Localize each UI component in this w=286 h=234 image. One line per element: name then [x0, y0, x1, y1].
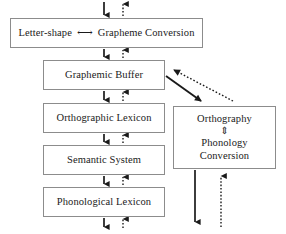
- node-phonological-lexicon[interactable]: Phonological Lexicon: [43, 187, 165, 217]
- node-orthographic-lexicon[interactable]: Orthographic Lexicon: [43, 103, 165, 133]
- orthography-text: Orthography: [197, 113, 252, 125]
- node-orthography-phonology-conversion[interactable]: Orthography ⇕ Phonology Conversion: [173, 106, 276, 169]
- node-label: Orthographic Lexicon: [56, 112, 151, 124]
- bidirectional-arrow-icon: ⟷: [77, 27, 93, 38]
- conversion-text: Conversion: [200, 150, 249, 162]
- letter-shape-text: Letter-shape: [18, 27, 71, 39]
- node-letter-shape-grapheme-conversion[interactable]: Letter-shape ⟷ Grapheme Conversion: [10, 18, 203, 48]
- diagram-canvas: Letter-shape ⟷ Grapheme Conversion Graph…: [0, 0, 286, 234]
- node-label: Semantic System: [67, 154, 141, 166]
- vertical-bidirectional-arrow-icon: ⇕: [220, 126, 228, 136]
- arrow-buffer-to-conversion-solid-diagonal: [166, 76, 201, 101]
- arrow-conversion-to-buffer-dotted-diagonal: [174, 70, 233, 101]
- node-label: Phonological Lexicon: [57, 196, 151, 208]
- node-graphemic-buffer[interactable]: Graphemic Buffer: [43, 60, 165, 90]
- phonology-text: Phonology: [201, 137, 247, 149]
- node-label: Letter-shape ⟷ Grapheme Conversion: [18, 27, 194, 39]
- node-label: Graphemic Buffer: [65, 69, 143, 81]
- node-semantic-system[interactable]: Semantic System: [43, 145, 165, 175]
- grapheme-conversion-text: Grapheme Conversion: [98, 27, 195, 39]
